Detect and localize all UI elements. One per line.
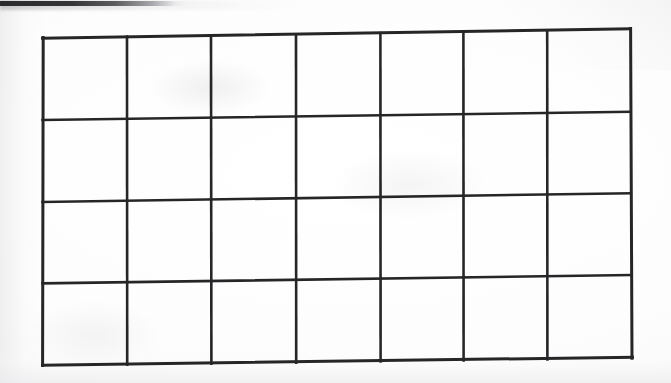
grid-cell[interactable]: [43, 37, 127, 120]
grid-row: [43, 112, 630, 202]
grid-cell[interactable]: [211, 117, 296, 200]
grid-cell[interactable]: [547, 112, 630, 194]
grid-cell[interactable]: [380, 196, 463, 279]
grid-cell[interactable]: [547, 193, 630, 276]
grid-cell[interactable]: [211, 280, 296, 363]
grid-vertical-line-left: [43, 37, 44, 365]
grid-cell[interactable]: [296, 197, 380, 280]
grid-cell[interactable]: [463, 194, 547, 277]
grid-table-svg: [0, 0, 671, 383]
grid-cell[interactable]: [380, 277, 463, 361]
grid-cell[interactable]: [463, 30, 547, 114]
grid-cell[interactable]: [43, 201, 127, 283]
grid-table: [0, 0, 671, 383]
grid-cell[interactable]: [127, 200, 211, 282]
grid-cell[interactable]: [380, 32, 463, 116]
grid-cell[interactable]: [43, 282, 127, 365]
grid-cell[interactable]: [547, 29, 630, 113]
grid-cell[interactable]: [296, 116, 380, 198]
grid-row: [43, 275, 630, 365]
grid-cell[interactable]: [211, 34, 296, 118]
grid-cell[interactable]: [127, 118, 211, 201]
grid-cell[interactable]: [296, 33, 380, 117]
grid-cell[interactable]: [296, 279, 380, 362]
grid-cell[interactable]: [463, 276, 547, 360]
grid-vertical-line-right: [631, 29, 632, 359]
scanned-page-canvas: [0, 0, 671, 383]
grid-cell[interactable]: [211, 198, 296, 281]
grid-cell[interactable]: [463, 113, 547, 196]
grid-cell[interactable]: [380, 114, 463, 197]
grid-row: [43, 29, 630, 120]
grid-cell[interactable]: [127, 281, 211, 364]
grid-cell[interactable]: [43, 119, 127, 202]
grid-cell[interactable]: [547, 275, 630, 359]
grid-cell[interactable]: [127, 36, 211, 119]
grid-row: [43, 193, 630, 283]
